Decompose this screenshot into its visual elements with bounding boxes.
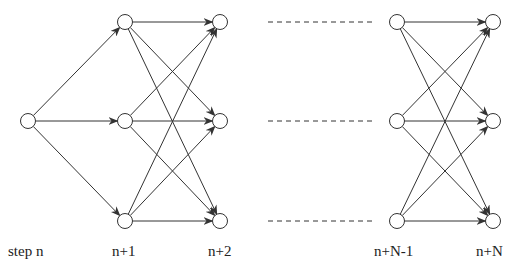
dashed-continuation-lines <box>268 22 372 221</box>
node-col2-row0 <box>390 15 405 30</box>
node-col1-row1 <box>213 114 228 129</box>
node-col2-row2 <box>390 214 405 229</box>
edges <box>33 22 490 221</box>
node-col1-row2 <box>213 214 228 229</box>
node-col2-row1 <box>390 114 405 129</box>
node-col0-row2 <box>118 214 133 229</box>
node-col3-row2 <box>486 214 501 229</box>
node-col0-row1 <box>118 114 133 129</box>
edge-arrow <box>33 27 120 115</box>
node-col3-row0 <box>486 15 501 30</box>
step-label: n+N <box>476 243 503 260</box>
trellis-graph <box>0 0 526 274</box>
node-col0-row0 <box>118 15 133 30</box>
step-label: n+N-1 <box>374 243 413 260</box>
edge-arrow <box>33 126 120 215</box>
node-col3-row1 <box>486 114 501 129</box>
step-label: step n <box>8 243 43 260</box>
node-col1-row0 <box>213 15 228 30</box>
step-label: n+2 <box>208 243 231 260</box>
step-label: n+1 <box>112 243 135 260</box>
node-step-n <box>21 114 36 129</box>
